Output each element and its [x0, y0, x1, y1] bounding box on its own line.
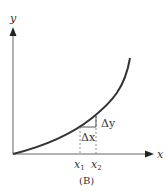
- delta-y-label: Δy: [101, 117, 116, 130]
- figure-caption: (B): [79, 175, 94, 186]
- x1-label: x1: [74, 158, 85, 172]
- diagram: y x Δy Δx x1 x2 (B): [0, 0, 166, 191]
- x-axis-label: x: [157, 148, 164, 161]
- x2-label: x2: [91, 158, 102, 172]
- x-axis-arrow-icon: [145, 151, 154, 158]
- y-axis-arrow-icon: [10, 27, 17, 36]
- y-axis-label: y: [9, 12, 17, 25]
- curve: [13, 58, 130, 154]
- delta-x-label: Δx: [81, 131, 96, 144]
